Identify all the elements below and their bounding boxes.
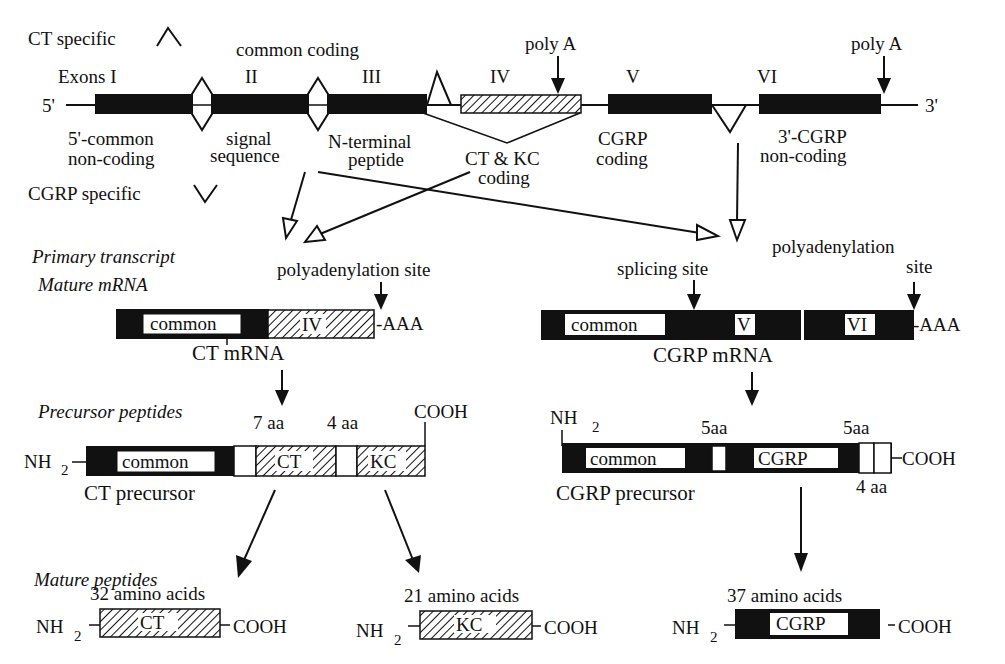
- poly-a-arrow-1-icon: [551, 78, 565, 94]
- cgrp-mrna-exon-vi-label: VI: [847, 314, 867, 335]
- ct-precursor: 7 aa 4 aa COOH NH 2 common CT KC CT prec…: [24, 401, 468, 578]
- ct-precursor-4aa-block: [336, 446, 357, 476]
- caret-up-icon: [157, 28, 181, 46]
- exon-ii-desc-2: sequence: [210, 145, 280, 166]
- ct-polyadenylation-site-label: polyadenylation site: [277, 259, 431, 280]
- ct-mrna-exon-label: IV: [302, 314, 322, 335]
- cgrp-peptide-nh2-label: NH: [672, 617, 700, 638]
- kc-peptide-length: 21 amino acids: [404, 585, 519, 606]
- ct-precursor-to-ct-arrow-icon: [236, 555, 252, 578]
- cgrp-peptide-name: CGRP: [776, 613, 826, 634]
- splicing-site-arrow-icon: [687, 294, 701, 310]
- mature-peptide-ct: 32 amino acids NH 2 CT COOH: [36, 583, 287, 644]
- cgrp-precursor-common-label: common: [590, 448, 657, 469]
- kc-peptide-nh2-label: NH: [356, 620, 384, 641]
- cgrp-mrna-common-label: common: [571, 314, 638, 335]
- ct-peptide-nh2-label: NH: [36, 616, 64, 637]
- ct-peptide-length: 32 amino acids: [90, 583, 205, 604]
- cgrp-peptide-cooh-label: COOH: [898, 616, 952, 637]
- legend-cgrp-specific: CGRP specific: [28, 183, 217, 204]
- poly-a-arrow-2-icon: [877, 78, 891, 94]
- cgrp-precursor-5aa-label-2: 5aa: [843, 417, 870, 438]
- exon-vi-label: VI: [757, 66, 777, 87]
- ct-mrna-to-precursor-arrow-icon: [275, 390, 289, 406]
- cgrp-polya-arrow-icon: [907, 294, 921, 310]
- open-arrow-1-icon: [283, 218, 297, 238]
- splice-diamond-1: [192, 78, 212, 130]
- common-coding-label: common coding: [236, 39, 359, 60]
- cgrp-peptide-nh2-sub: 2: [710, 629, 718, 645]
- ct-precursor-nh2-sub: 2: [61, 462, 69, 478]
- open-arrow-2-icon: [305, 226, 325, 242]
- cgrp-precursor-4aa-label: 4 aa: [856, 476, 888, 497]
- exon-v-block: [608, 94, 712, 114]
- cgrp-precursor-to-cgrp-arrow-icon: [794, 553, 808, 572]
- kc-peptide-name: KC: [456, 614, 482, 635]
- calcitonin-gene-splicing-diagram: CT specific CGRP specific common coding …: [0, 0, 1005, 664]
- ct-kc-bracket: [423, 113, 580, 143]
- cgrp-precursor-name: CGRP precursor: [556, 481, 695, 505]
- ct-mrna-name: CT mRNA: [192, 341, 285, 365]
- ct-precursor-ct-label: CT: [277, 451, 302, 472]
- kc-peptide-nh2-sub: 2: [394, 632, 402, 648]
- legend-ct-specific: CT specific: [28, 28, 181, 49]
- three-prime-label: 3': [925, 95, 938, 116]
- poly-a-label-1: poly A: [525, 33, 576, 54]
- exon-i-desc-1: 5'-common: [68, 128, 154, 149]
- exon-iv-block: [461, 95, 581, 113]
- ct-peptide-cooh-label: COOH: [233, 616, 287, 637]
- ct-peptide-name: CT: [140, 612, 165, 633]
- cgrp-precursor-nh2-sub: 2: [592, 419, 600, 435]
- cgrp-precursor-5aa-block-2: [859, 443, 874, 473]
- poly-a-label-2: poly A: [851, 33, 902, 54]
- exon-iii-block: [327, 94, 427, 114]
- cgrp-precursor: NH 2 5aa 5aa common CGRP COOH 4 aa CGRP …: [550, 407, 956, 572]
- cgrp-polyadenylation-label-1: polyadenylation: [772, 236, 895, 257]
- cgrp-mrna: splicing site polyadenylation site commo…: [541, 236, 961, 406]
- cgrp-splice-caret: [712, 105, 746, 132]
- gene-structure: common coding Exons I II III IV V VI 5' …: [42, 33, 938, 188]
- ct-precursor-7aa-block: [234, 446, 256, 476]
- legend-cgrp-specific-label: CGRP specific: [28, 183, 141, 204]
- mature-peptide-kc: 21 amino acids NH 2 KC COOH: [356, 585, 598, 648]
- exon-vi-desc-1: 3'-CGRP: [778, 126, 847, 147]
- cgrp-precursor-5aa-block-1: [712, 446, 726, 471]
- legend-ct-specific-label: CT specific: [28, 28, 116, 49]
- cgrp-peptide-length: 37 amino acids: [727, 585, 842, 606]
- exon-v-desc-2: coding: [596, 148, 648, 169]
- exon-v-desc-1: CGRP: [598, 128, 648, 149]
- ct-precursor-nh2-label: NH: [24, 451, 52, 472]
- exon-vi-block: [759, 94, 881, 114]
- ct-peptide-nh2-sub: 2: [74, 628, 82, 644]
- ct-mrna: polyadenylation site common IV -AAA CT m…: [116, 259, 431, 406]
- exon-iii-label: III: [362, 66, 381, 87]
- ct-mrna-common-label: common: [150, 313, 217, 334]
- ct-precursor-kc-label: KC: [370, 451, 396, 472]
- ct-precursor-name: CT precursor: [84, 481, 195, 505]
- ct-precursor-common-label: common: [122, 451, 189, 472]
- exon-iii-desc-2: peptide: [348, 149, 404, 170]
- kc-peptide-cooh-label: COOH: [544, 617, 598, 638]
- five-prime-label: 5': [42, 95, 55, 116]
- cgrp-precursor-cooh-label: COOH: [902, 448, 956, 469]
- cgrp-precursor-cgrp-label: CGRP: [758, 448, 808, 469]
- ct-precursor-7aa-label: 7 aa: [253, 412, 285, 433]
- cgrp-precursor-nh2-label: NH: [550, 407, 578, 428]
- exon-v-label: V: [626, 66, 640, 87]
- cgrp-mrna-exon-v-label: V: [737, 314, 751, 335]
- exon-vi-desc-2: non-coding: [760, 145, 847, 166]
- splicing-site-label: splicing site: [617, 258, 708, 279]
- cgrp-precursor-4aa-block: [874, 443, 891, 473]
- open-arrow-3-icon: [697, 225, 718, 240]
- exon-ii-label: II: [245, 66, 258, 87]
- cgrp-precursor-5aa-label-1: 5aa: [701, 417, 728, 438]
- mature-peptide-cgrp: 37 amino acids NH 2 CGRP COOH: [672, 585, 952, 645]
- ct-precursor-to-kc-arrow-icon: [405, 555, 421, 573]
- exon-i-block: [95, 94, 195, 114]
- exon-i-desc-2: non-coding: [68, 148, 155, 169]
- caret-down-icon: [194, 185, 217, 202]
- exon-iv-label: IV: [490, 66, 510, 87]
- primary-transcript-label: Primary transcript: [31, 246, 176, 267]
- cgrp-mrna-to-precursor-arrow-icon: [745, 390, 759, 406]
- ct-polya-arrow-icon: [374, 294, 388, 310]
